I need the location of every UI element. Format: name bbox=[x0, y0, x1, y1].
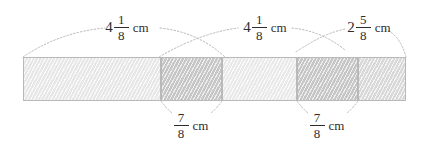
bottom-label-1-numerator: 7 bbox=[175, 111, 188, 125]
bottom-label-2-unit: cm bbox=[325, 119, 345, 132]
top-label-2-whole: 4 bbox=[243, 20, 252, 35]
bar-segment-5 bbox=[358, 57, 406, 101]
top-label-1-unit: cm bbox=[129, 21, 149, 34]
bottom-label-1-denominator: 8 bbox=[175, 126, 188, 140]
top-label-1-whole: 4 bbox=[105, 20, 114, 35]
bottom-label-1-fraction: 7 8 bbox=[174, 111, 189, 140]
top-label-1: 4 1 8 cm bbox=[88, 14, 166, 40]
top-label-3: 2 5 8 cm bbox=[330, 14, 408, 40]
top-label-1-fraction: 1 8 bbox=[114, 13, 129, 42]
bar-segment-1 bbox=[23, 57, 161, 101]
bottom-label-2-fraction: 7 8 bbox=[310, 111, 325, 140]
top-label-2-unit: cm bbox=[267, 21, 287, 34]
bottom-label-2: 7 8 cm bbox=[288, 112, 366, 138]
top-label-2: 4 1 8 cm bbox=[226, 14, 304, 40]
top-label-3-fraction: 5 8 bbox=[356, 13, 371, 42]
bottom-label-1-unit: cm bbox=[189, 119, 209, 132]
top-label-2-fraction: 1 8 bbox=[252, 13, 267, 42]
top-label-1-denominator: 8 bbox=[115, 28, 128, 42]
top-label-3-denominator: 8 bbox=[357, 28, 370, 42]
top-label-3-numerator: 5 bbox=[357, 13, 370, 27]
top-label-3-unit: cm bbox=[371, 21, 391, 34]
measurement-diagram: 4 1 8 cm 4 1 8 cm 2 5 8 cm 7 8 bbox=[0, 0, 428, 149]
top-label-2-denominator: 8 bbox=[253, 28, 266, 42]
bar-segment-2 bbox=[161, 57, 222, 101]
bar-segment-3 bbox=[222, 57, 297, 101]
top-label-2-numerator: 1 bbox=[253, 13, 266, 27]
bottom-label-1: 7 8 cm bbox=[152, 112, 230, 138]
bar-segment-4 bbox=[297, 57, 358, 101]
top-label-3-whole: 2 bbox=[347, 20, 356, 35]
bottom-label-2-denominator: 8 bbox=[311, 126, 324, 140]
bottom-label-2-numerator: 7 bbox=[311, 111, 324, 125]
measurement-bar bbox=[23, 57, 406, 101]
top-label-1-numerator: 1 bbox=[115, 13, 128, 27]
top-arc-1-right bbox=[160, 28, 225, 57]
